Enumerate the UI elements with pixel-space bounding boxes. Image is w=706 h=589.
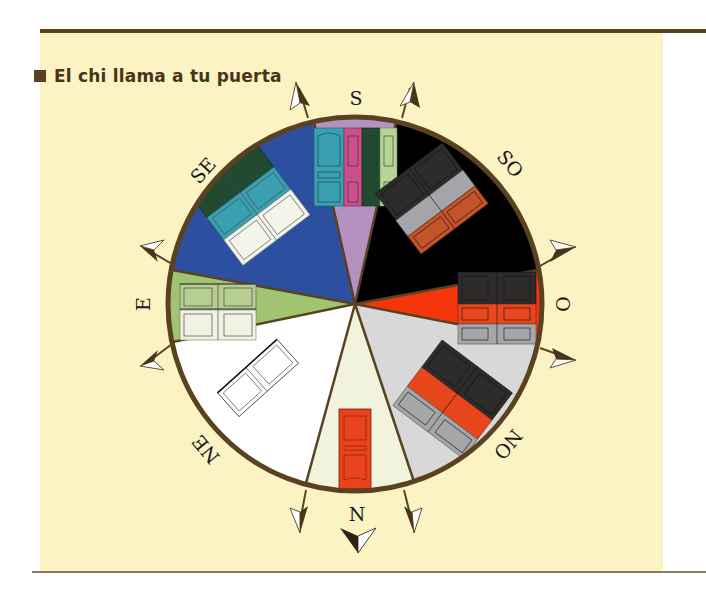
feng-shui-compass: S SO O NO N NE E SE	[0, 0, 706, 589]
label-s: S	[349, 87, 362, 109]
label-e: E	[132, 297, 154, 311]
label-so: SO	[493, 145, 528, 181]
doors-o	[458, 272, 536, 344]
compass-sectors	[0, 60, 700, 560]
label-ne: NE	[187, 431, 223, 469]
label-o: O	[552, 296, 574, 312]
doors-e	[180, 284, 256, 340]
north-arrow-icon	[340, 528, 376, 553]
label-n: N	[349, 503, 366, 525]
doors-n	[339, 409, 371, 489]
